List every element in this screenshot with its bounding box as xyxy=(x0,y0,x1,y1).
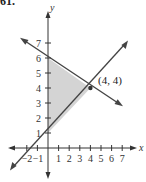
x-tick-label: 6 xyxy=(109,153,114,164)
y-axis-label: y xyxy=(49,2,55,13)
x-tick-label: −1 xyxy=(33,153,44,164)
x-tick-label: 7 xyxy=(120,153,125,164)
y-tick-label: 2 xyxy=(36,113,41,124)
y-tick-label: 7 xyxy=(36,38,41,49)
x-axis-arrow-left xyxy=(8,146,15,151)
x-tick-label: 2 xyxy=(67,153,72,164)
decreasing-line-arrow-end xyxy=(115,99,124,106)
y-tick-label: 4 xyxy=(36,83,41,94)
increasing-line-arrow-end xyxy=(121,41,128,49)
y-tick-label: 3 xyxy=(36,98,41,109)
y-tick-label: 5 xyxy=(36,68,41,79)
x-axis-arrow-right xyxy=(130,146,137,151)
y-tick-label: 6 xyxy=(36,53,41,64)
y-axis-arrow-down xyxy=(46,172,51,179)
intersection-point xyxy=(88,86,92,90)
increasing-line-arrow-start xyxy=(10,162,17,170)
decreasing-line-arrow-start xyxy=(20,38,29,45)
x-tick-label: 3 xyxy=(77,153,82,164)
graph: −2 −1 1 2 3 4 5 6 7 1 2 3 4 5 6 7 y x (4… xyxy=(0,0,146,182)
intersection-label: (4, 4) xyxy=(98,74,122,87)
x-tick-label: 1 xyxy=(56,153,61,164)
x-tick-label: 5 xyxy=(99,153,104,164)
x-axis-label: x xyxy=(138,142,144,153)
x-tick-label: −2 xyxy=(22,153,33,164)
x-tick-label: 4 xyxy=(88,153,93,164)
